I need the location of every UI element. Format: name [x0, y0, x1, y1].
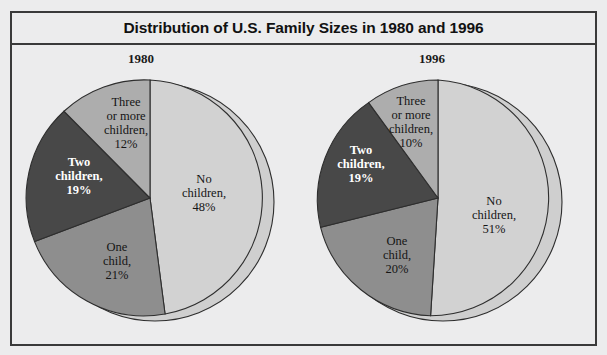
pie-svg-1996 — [302, 70, 582, 330]
pie-slices-1980 — [26, 80, 262, 316]
figure-canvas: Distribution of U.S. Family Sizes in 198… — [0, 0, 607, 355]
title-bar: Distribution of U.S. Family Sizes in 198… — [12, 13, 595, 43]
frame-border-right — [595, 11, 597, 346]
title-divider-rule — [10, 43, 597, 45]
year-label-1996: 1996 — [292, 51, 572, 67]
chart-title: Distribution of U.S. Family Sizes in 198… — [123, 19, 483, 37]
pie-chart-1996: 1996 No children, 51% — [302, 48, 582, 343]
pie-chart-1980: 1980 No children, 48% — [14, 48, 294, 343]
pie-graphic-1996: No children, 51% One child, 20% Two chil… — [302, 70, 582, 330]
pie-svg-1980 — [14, 70, 294, 330]
year-label-1980: 1980 — [1, 51, 281, 67]
pie-slices-1996 — [317, 80, 548, 316]
frame-border-bottom — [10, 344, 597, 346]
pie-graphic-1980: No children, 48% One child, 21% Two chil… — [14, 70, 294, 330]
